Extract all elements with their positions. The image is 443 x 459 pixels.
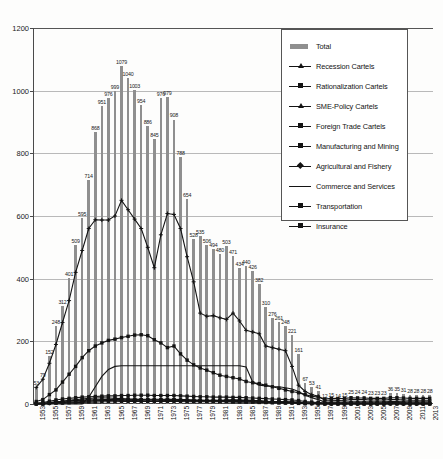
data-point-marker — [369, 397, 372, 400]
data-point-marker — [166, 346, 169, 349]
data-point-marker — [211, 314, 215, 318]
data-point-marker — [258, 401, 261, 404]
data-point-marker — [179, 394, 182, 397]
data-point-marker — [80, 248, 84, 252]
data-point-marker — [382, 397, 385, 400]
bar-value-label: 976 — [104, 91, 112, 97]
bar-value-label: 41 — [315, 384, 321, 390]
legend-item[interactable]: Total — [289, 36, 402, 56]
data-point-marker — [74, 401, 77, 404]
bar-value-label: 25 — [348, 389, 354, 395]
data-point-marker — [231, 400, 234, 403]
legend-item[interactable]: SME-Policy Cartels — [289, 96, 402, 116]
bar-value-label: 53 — [309, 380, 315, 386]
data-point-marker — [67, 401, 70, 404]
bar-value-label: 15 — [329, 392, 335, 398]
data-point-marker — [408, 397, 411, 400]
data-point-marker — [166, 394, 169, 397]
data-point-marker — [74, 270, 78, 274]
y-axis-tick-mark — [30, 404, 34, 405]
legend-item-label: Agricultural and Fishery — [316, 162, 391, 171]
data-point-marker — [87, 349, 90, 352]
data-point-marker — [244, 400, 247, 403]
data-point-marker — [120, 394, 123, 397]
x-axis-tick-label: 1985 — [249, 406, 256, 420]
data-point-marker — [172, 400, 175, 403]
data-point-marker — [389, 402, 392, 405]
data-point-marker — [212, 371, 215, 374]
y-axis-tick-label: 0 — [25, 400, 29, 409]
data-point-marker — [238, 377, 241, 380]
legend-item[interactable]: Insurance — [289, 216, 402, 236]
bar-value-label: 28 — [414, 388, 420, 394]
data-point-marker — [185, 400, 188, 403]
bar-value-label: 401 — [65, 271, 73, 277]
data-point-marker — [402, 402, 405, 405]
data-point-marker — [140, 333, 143, 336]
bar-value-label: 67 — [302, 376, 308, 382]
legend-key-icon — [289, 120, 311, 132]
bar-value-label: 79 — [40, 372, 46, 378]
data-point-marker — [303, 402, 306, 405]
bar-value-label: 312 — [58, 299, 66, 305]
y-axis-tick-label: 800 — [16, 149, 29, 158]
data-point-marker — [198, 311, 202, 315]
data-point-marker — [120, 336, 123, 339]
data-point-marker — [192, 400, 195, 403]
x-axis-labels: 1953195519571959196119631965196719691971… — [33, 406, 433, 456]
data-point-marker — [67, 299, 71, 303]
y-axis-tick-label: 200 — [16, 337, 29, 346]
legend-item[interactable]: Rationalization Cartels — [289, 76, 402, 96]
legend-key-icon — [289, 180, 311, 192]
data-point-marker — [100, 394, 103, 397]
x-axis-tick-label: 1977 — [196, 406, 203, 420]
bar-value-label: 161 — [294, 347, 302, 353]
legend-key-icon — [289, 80, 311, 92]
data-point-marker — [54, 401, 57, 404]
data-point-marker — [376, 397, 379, 400]
data-point-marker — [421, 397, 424, 400]
data-point-marker — [251, 330, 255, 334]
bar-value-label: 1040 — [123, 71, 134, 77]
data-point-marker — [244, 380, 247, 383]
data-point-marker — [152, 266, 156, 270]
x-axis-tick-label: 2013 — [432, 406, 439, 420]
data-point-marker — [284, 401, 287, 404]
x-axis-tick-label: 1993 — [301, 406, 308, 420]
y-axis-tick-label: 600 — [16, 212, 29, 221]
data-point-marker — [126, 400, 129, 403]
x-axis-tick-label: 1963 — [104, 406, 111, 420]
data-point-marker — [369, 402, 372, 405]
data-point-marker — [218, 316, 222, 320]
data-point-marker — [165, 211, 169, 215]
bar-value-label: 152 — [45, 349, 53, 355]
legend-item[interactable]: Commerce and Services — [289, 176, 402, 196]
data-point-marker — [415, 402, 418, 405]
x-axis-tick-label: 1981 — [222, 406, 229, 420]
x-axis-tick-label: 1961 — [91, 406, 98, 420]
legend-item[interactable]: Manufacturing and Mining — [289, 136, 402, 156]
legend-item[interactable]: Foreign Trade Cartels — [289, 116, 402, 136]
x-axis-tick-label: 1975 — [183, 406, 190, 420]
data-point-marker — [113, 400, 116, 403]
data-point-marker — [199, 366, 202, 369]
data-point-marker — [133, 333, 136, 336]
data-point-marker — [257, 332, 261, 336]
legend-item[interactable]: Recession Cartels — [289, 56, 402, 76]
data-point-marker — [179, 400, 182, 403]
legend-item-label: Manufacturing and Mining — [316, 142, 399, 151]
data-point-marker — [126, 335, 129, 338]
bar-value-label: 654 — [183, 192, 191, 198]
x-axis-tick-label: 1979 — [209, 406, 216, 420]
legend-item[interactable]: Transportation — [289, 196, 402, 216]
bar-value-label: 999 — [111, 84, 119, 90]
bar-value-label: 1079 — [116, 59, 127, 65]
data-point-marker — [153, 400, 156, 403]
bar-value-label: 28 — [427, 388, 433, 394]
cartel-count-chart: 020040060080010001200 537915224831240150… — [0, 0, 443, 459]
legend-item[interactable]: Agricultural and Fishery — [289, 156, 402, 176]
bar-value-label: 53 — [34, 380, 40, 386]
x-axis-tick-label: 2009 — [406, 406, 413, 420]
x-axis-tick-label: 1995 — [314, 406, 321, 420]
legend-key-icon — [289, 60, 311, 72]
